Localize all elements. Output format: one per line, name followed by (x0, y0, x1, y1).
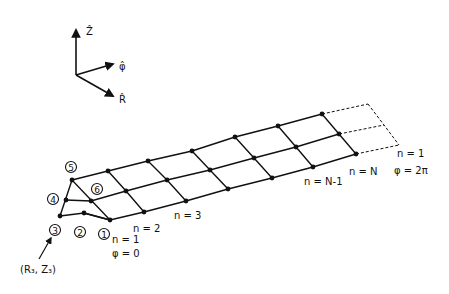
n2-label: n = 2 (133, 223, 160, 234)
n1-end-label: n = 1 (397, 148, 424, 159)
phi-end-label: φ = 2π (394, 165, 428, 176)
coordinate-axes (76, 30, 113, 96)
phi-start-label: φ = 0 (112, 248, 140, 259)
node-label-6: 6 (94, 185, 100, 195)
pointer-arrow-icon (39, 238, 51, 259)
node-label-5: 5 (68, 163, 74, 173)
r-axis-label: R̂ (119, 93, 126, 105)
n3-label: n = 3 (174, 210, 201, 221)
node-label-1: 1 (101, 230, 107, 240)
r-axis-arrow-icon (76, 75, 113, 96)
nN-1-label: n = N-1 (304, 176, 343, 187)
node-label-2: 2 (77, 228, 83, 238)
phi-axis-label: φ̂ (119, 61, 126, 72)
n1-start-label: n = 1 (112, 234, 139, 245)
point-coordinate-label: (R₃, Z₃) (20, 264, 56, 275)
periodic-continuation (322, 104, 399, 154)
z-axis-label: Ẑ (86, 25, 93, 37)
node-label-3: 3 (52, 226, 58, 236)
node-label-4: 4 (50, 195, 56, 205)
phi-axis-arrow-icon (76, 64, 113, 75)
nN-label: n = N (349, 166, 378, 177)
toroidal-mesh-diagram: Ẑ φ̂ R̂ (0, 0, 449, 294)
